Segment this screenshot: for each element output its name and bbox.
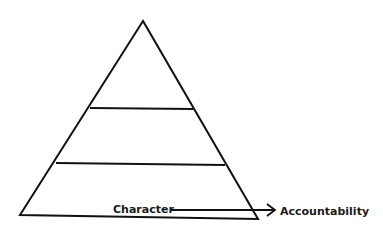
- character-label: Character: [113, 203, 174, 216]
- accountability-label: Accountability: [280, 205, 369, 218]
- pyramid-divider-upper: [90, 108, 193, 109]
- pyramid-diagram: Character Accountability: [0, 0, 383, 233]
- pyramid-divider-lower: [56, 163, 225, 165]
- pyramid-outline: [20, 21, 258, 219]
